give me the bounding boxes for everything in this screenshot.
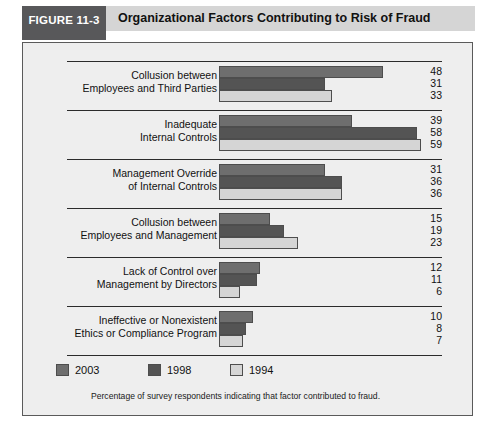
chart-group: Lack of Control overManagement by Direct… <box>67 257 442 304</box>
category-label: Lack of Control overManagement by Direct… <box>67 265 217 290</box>
legend-swatch-icon <box>148 364 161 376</box>
category-label: Ineffective or NonexistentEthics or Comp… <box>67 314 217 339</box>
bar-stack <box>219 261 374 302</box>
group-separator-rule <box>67 208 442 209</box>
group-separator-rule <box>67 61 442 62</box>
bar-value-1994: 6 <box>385 285 442 297</box>
category-label: Collusion betweenEmployees and Third Par… <box>67 69 217 94</box>
category-label-line: Internal Controls <box>67 131 217 144</box>
bar-2003 <box>219 164 325 176</box>
category-label-line: Employees and Management <box>67 229 217 242</box>
bar-value-1998: 11 <box>385 273 442 285</box>
bar-value-1994: 36 <box>385 187 442 199</box>
bar-value-2003: 12 <box>385 261 442 273</box>
legend-swatch-icon <box>230 364 243 376</box>
bar-value-1998: 19 <box>385 224 442 236</box>
bar-1994 <box>219 335 243 347</box>
category-label: Management Overrideof Internal Controls <box>67 167 217 192</box>
category-label-line: Collusion between <box>67 69 217 82</box>
bar-1994 <box>219 237 298 249</box>
category-label-line: Employees and Third Parties <box>67 82 217 95</box>
chart-plot-area: Collusion betweenEmployees and Third Par… <box>23 43 474 417</box>
chart-group: InadequateInternal Controls395859 <box>67 110 442 157</box>
category-label-line: Lack of Control over <box>67 265 217 278</box>
category-label-line: Inadequate <box>67 118 217 131</box>
chart-footnote: Percentage of survey respondents indicat… <box>91 391 380 401</box>
bar-stack <box>219 212 374 253</box>
group-separator-rule <box>67 159 442 160</box>
bar-value-2003: 48 <box>385 65 442 77</box>
figure-header-bar: Organizational Factors Contributing to R… <box>106 6 475 31</box>
bar-2003 <box>219 213 270 225</box>
bar-1994 <box>219 90 332 102</box>
bar-value-2003: 15 <box>385 212 442 224</box>
bar-stack <box>219 163 374 204</box>
chart-group: Management Overrideof Internal Controls3… <box>67 159 442 206</box>
group-separator-rule <box>67 306 442 307</box>
bar-value-2003: 31 <box>385 163 442 175</box>
bar-1994 <box>219 188 342 200</box>
legend-label: 1998 <box>167 364 191 376</box>
chart-baseline-rule <box>67 355 442 356</box>
category-label: InadequateInternal Controls <box>67 118 217 143</box>
legend-label: 2003 <box>75 364 99 376</box>
legend-swatch-icon <box>56 364 69 376</box>
category-label: Collusion betweenEmployees and Managemen… <box>67 216 217 241</box>
bar-2003 <box>219 311 253 323</box>
category-label-line: Management by Directors <box>67 278 217 291</box>
bar-value-1994: 59 <box>385 138 442 150</box>
bar-value-1998: 8 <box>385 322 442 334</box>
bar-stack <box>219 310 374 351</box>
category-label-line: Ethics or Compliance Program <box>67 327 217 340</box>
bar-value-1998: 36 <box>385 175 442 187</box>
figure-number-tab: FIGURE 11-3 <box>22 6 106 40</box>
bar-value-1998: 31 <box>385 77 442 89</box>
bar-value-2003: 39 <box>385 114 442 126</box>
bar-value-2003: 10 <box>385 310 442 322</box>
bar-1998 <box>219 323 246 335</box>
figure-container: Organizational Factors Contributing to R… <box>0 0 497 424</box>
figure-header: Organizational Factors Contributing to R… <box>22 6 475 40</box>
category-label-line: Management Override <box>67 167 217 180</box>
category-label-line: of Internal Controls <box>67 180 217 193</box>
bar-1994 <box>219 286 240 298</box>
chart-group: Ineffective or NonexistentEthics or Comp… <box>67 306 442 353</box>
bar-1998 <box>219 274 257 286</box>
figure-title: Organizational Factors Contributing to R… <box>118 11 431 25</box>
bar-1998 <box>219 176 342 188</box>
bar-2003 <box>219 262 260 274</box>
figure-number-label: FIGURE 11-3 <box>22 14 106 26</box>
chart-group: Collusion betweenEmployees and Third Par… <box>67 61 442 108</box>
bar-value-1994: 33 <box>385 89 442 101</box>
group-separator-rule <box>67 110 442 111</box>
bar-1998 <box>219 78 325 90</box>
legend-label: 1994 <box>249 364 273 376</box>
group-separator-rule <box>67 257 442 258</box>
bar-value-1998: 58 <box>385 126 442 138</box>
category-label-line: Collusion between <box>67 216 217 229</box>
bar-2003 <box>219 115 352 127</box>
bar-1998 <box>219 225 284 237</box>
chart-frame: Collusion betweenEmployees and Third Par… <box>22 42 473 416</box>
chart-group: Collusion betweenEmployees and Managemen… <box>67 208 442 255</box>
category-label-line: Ineffective or Nonexistent <box>67 314 217 327</box>
bar-value-1994: 7 <box>385 334 442 346</box>
bar-2003 <box>219 66 383 78</box>
bar-stack <box>219 65 374 106</box>
bar-stack <box>219 114 374 155</box>
bar-value-1994: 23 <box>385 236 442 248</box>
